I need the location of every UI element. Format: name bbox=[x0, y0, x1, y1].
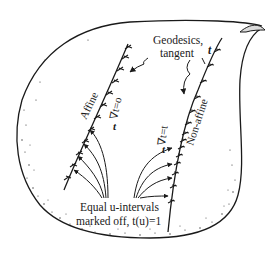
equal-interval-leaders-nonaffine bbox=[134, 148, 172, 198]
geodesics-tangent-leaders bbox=[130, 58, 205, 94]
label-tangent: tangent bbox=[160, 47, 195, 60]
label-affine-equation: ∇t=o bbox=[107, 95, 124, 120]
geodesics-figure: Geodesics, tangent t Affine ∇t=o t Non-a… bbox=[0, 0, 277, 257]
label-geodesics: Geodesics, bbox=[153, 34, 203, 47]
affine-geodesic bbox=[64, 44, 132, 190]
label-t-top: t bbox=[208, 44, 212, 56]
equal-interval-leaders-affine bbox=[74, 130, 108, 198]
label-affine-t: t bbox=[113, 120, 117, 132]
label-marked-off: marked off, t(u)=1 bbox=[76, 215, 161, 228]
label-equal-intervals: Equal u-intervals bbox=[80, 201, 159, 214]
